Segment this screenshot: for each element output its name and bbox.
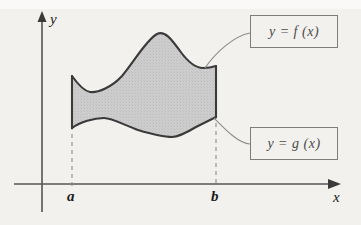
leader-line-f	[205, 33, 250, 68]
callout-box-g: y = g (x)	[250, 127, 338, 160]
callout-label-f: y = f (x)	[269, 24, 319, 40]
y-axis-label: y	[50, 12, 57, 27]
x-axis-label: x	[333, 190, 340, 205]
x-tick-label-b: b	[211, 189, 219, 204]
area-between-curves-figure: y x a b y = f (x) y = g (x)	[0, 0, 361, 225]
x-axis-arrowhead	[328, 179, 341, 189]
x-tick-label-a: a	[67, 189, 75, 204]
callout-label-g: y = g (x)	[267, 136, 320, 152]
shaded-region	[72, 33, 216, 137]
leader-line-g	[214, 118, 250, 144]
y-axis-arrowhead	[38, 11, 47, 22]
callout-box-f: y = f (x)	[250, 15, 338, 48]
